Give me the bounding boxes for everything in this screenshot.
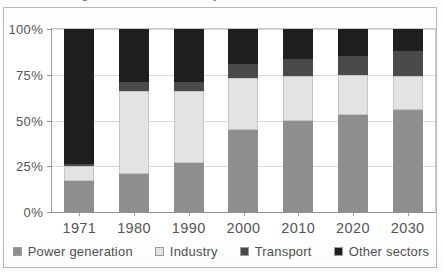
y-axis-label: 100% (9, 22, 43, 37)
stacked-bar[interactable] (283, 29, 313, 212)
bar-group (52, 29, 435, 212)
legend-label: Transport (255, 244, 312, 259)
figure-title-text: Figure 1: CO2 emissions by sector (72, 0, 255, 1)
bar-segment-power-generation[interactable] (228, 130, 258, 212)
x-axis-tick (244, 212, 245, 216)
chart-legend: Power generationIndustryTransportOther s… (4, 244, 438, 259)
legend-label: Power generation (28, 244, 133, 259)
bar-segment-transport[interactable] (119, 82, 149, 91)
bar-segment-transport[interactable] (393, 51, 423, 76)
x-axis-tick (79, 212, 80, 216)
bar-segment-industry[interactable] (338, 75, 368, 115)
legend-item[interactable]: Other sectors (334, 244, 430, 259)
bar-segment-other-sectors[interactable] (283, 29, 313, 59)
bar-segment-other-sectors[interactable] (228, 29, 258, 64)
x-axis-label: 2010 (281, 220, 315, 236)
y-axis-label: 75% (16, 67, 43, 82)
bar-segment-other-sectors[interactable] (119, 29, 149, 82)
x-axis-label: 2030 (391, 220, 425, 236)
bar-slot (271, 29, 326, 212)
bar-segment-industry[interactable] (393, 76, 423, 110)
legend-label: Other sectors (349, 244, 430, 259)
bar-segment-industry[interactable] (64, 166, 94, 181)
bar-segment-transport[interactable] (338, 56, 368, 75)
x-axis-label: 1990 (172, 220, 206, 236)
bar-segment-industry[interactable] (228, 78, 258, 129)
x-axis-tick (353, 212, 354, 216)
legend-label: Industry (170, 244, 218, 259)
legend-swatch-icon (155, 247, 164, 256)
bar-slot (107, 29, 162, 212)
legend-swatch-icon (334, 247, 343, 256)
x-axis-tick (298, 212, 299, 216)
legend-item[interactable]: Industry (155, 244, 218, 259)
y-axis-tick (47, 212, 52, 213)
x-axis-label: 1971 (62, 220, 96, 236)
plot-area: 0%25%50%75%100% 197119801990200020102020… (51, 28, 436, 213)
bar-segment-power-generation[interactable] (338, 115, 368, 212)
bar-segment-transport[interactable] (174, 82, 204, 91)
bar-segment-transport[interactable] (228, 64, 258, 79)
legend-item[interactable]: Transport (240, 244, 312, 259)
bar-segment-transport[interactable] (283, 59, 313, 75)
stacked-bar[interactable] (228, 29, 258, 212)
stacked-bar[interactable] (393, 29, 423, 212)
x-axis-tick (134, 212, 135, 216)
bar-segment-other-sectors[interactable] (174, 29, 204, 82)
chart-frame: 0%25%50%75%100% 197119801990200020102020… (3, 7, 437, 268)
stacked-bar[interactable] (119, 29, 149, 212)
y-axis-label: 25% (16, 159, 43, 174)
x-axis-label: 2000 (227, 220, 261, 236)
bar-segment-other-sectors[interactable] (393, 29, 423, 51)
bar-segment-power-generation[interactable] (174, 163, 204, 212)
bar-segment-industry[interactable] (283, 76, 313, 122)
bar-segment-other-sectors[interactable] (64, 29, 94, 164)
bar-segment-industry[interactable] (119, 91, 149, 173)
bar-segment-other-sectors[interactable] (338, 29, 368, 56)
x-axis-label: 1980 (117, 220, 151, 236)
x-axis-tick (189, 212, 190, 216)
bar-slot (216, 29, 271, 212)
stacked-bar[interactable] (64, 29, 94, 212)
bar-segment-industry[interactable] (174, 91, 204, 162)
stacked-bar[interactable] (338, 29, 368, 212)
bar-segment-power-generation[interactable] (393, 110, 423, 212)
legend-swatch-icon (13, 247, 22, 256)
bar-segment-power-generation[interactable] (283, 121, 313, 212)
bar-segment-power-generation[interactable] (119, 174, 149, 212)
bar-slot (52, 29, 107, 212)
chart-figure: Figure 1: CO2 emissions by sector 0%25%5… (0, 0, 442, 272)
x-axis-label: 2020 (336, 220, 370, 236)
x-axis-tick (408, 212, 409, 216)
figure-title-cropped: Figure 1: CO2 emissions by sector (0, 0, 442, 7)
bar-segment-power-generation[interactable] (64, 181, 94, 212)
legend-item[interactable]: Power generation (13, 244, 133, 259)
y-axis-label: 50% (16, 113, 43, 128)
y-axis-label: 0% (24, 205, 43, 220)
bar-slot (326, 29, 381, 212)
legend-swatch-icon (240, 247, 249, 256)
stacked-bar[interactable] (174, 29, 204, 212)
bar-slot (161, 29, 216, 212)
bar-slot (380, 29, 435, 212)
